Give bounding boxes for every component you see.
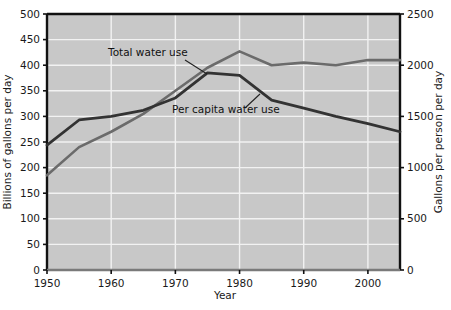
tick-label-left: 400 [20, 59, 40, 71]
tick-label-left: 350 [20, 84, 40, 96]
tick-label-right: 2500 [407, 8, 434, 20]
tick-label-left: 150 [20, 187, 40, 199]
tick-label-x: 1990 [290, 277, 317, 289]
tick-label-x: 1950 [34, 277, 61, 289]
total-water-use-label: Total water use [107, 46, 188, 58]
tick-label-right: 2000 [407, 59, 434, 71]
tick-label-x: 1970 [162, 277, 189, 289]
chart-canvas: 050100150200250300350400450500 050010001… [0, 0, 451, 310]
tick-label-left: 250 [20, 136, 40, 148]
per-capita-water-use-label: Per capita water use [172, 103, 280, 115]
left-axis-title: Billions of gallons per day [1, 74, 13, 209]
tick-label-left: 450 [20, 33, 40, 45]
tick-label-right: 500 [407, 212, 427, 224]
tick-label-x: 1960 [98, 277, 125, 289]
tick-label-right: 0 [407, 264, 414, 276]
tick-label-x: 2000 [355, 277, 382, 289]
tick-label-right: 1000 [407, 161, 434, 173]
tick-label-left: 0 [33, 264, 40, 276]
tick-label-left: 100 [20, 212, 40, 224]
right-axis-title: Gallons per person per day [432, 71, 444, 214]
water-use-chart: 050100150200250300350400450500 050010001… [0, 0, 451, 310]
tick-label-left: 300 [20, 110, 40, 122]
tick-label-left: 50 [27, 238, 40, 250]
tick-label-x: 1980 [226, 277, 253, 289]
tick-label-left: 500 [20, 8, 40, 20]
tick-label-right: 1500 [407, 110, 434, 122]
x-axis-title: Year [213, 289, 237, 301]
tick-label-left: 200 [20, 161, 40, 173]
